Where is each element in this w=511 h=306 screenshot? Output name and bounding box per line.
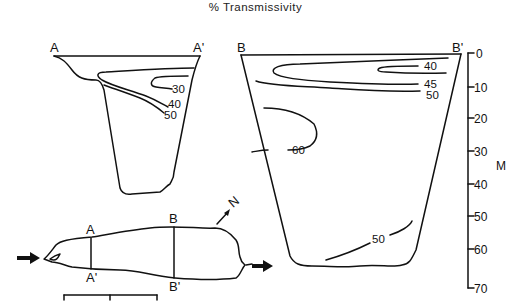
north-label: N bbox=[225, 193, 242, 211]
section-b-right-label: B' bbox=[452, 40, 463, 55]
map-a-prime-label: A' bbox=[86, 270, 97, 285]
depth-tick-label: 0 bbox=[476, 47, 483, 61]
lake-map bbox=[44, 227, 252, 280]
outflow-arrow-icon bbox=[252, 260, 273, 272]
contour-label: 50 bbox=[426, 89, 439, 101]
depth-tick-label: 60 bbox=[474, 243, 488, 257]
inflow-arrow-icon bbox=[17, 252, 40, 264]
depth-tick-label: 70 bbox=[474, 282, 488, 296]
depth-tick-label: 40 bbox=[474, 178, 488, 192]
section-a-profile bbox=[54, 56, 200, 194]
depth-unit-label: M bbox=[496, 159, 506, 173]
contour-label: 30 bbox=[172, 83, 185, 95]
map-a-label: A bbox=[86, 222, 95, 237]
contour-label: 40 bbox=[424, 60, 437, 72]
contour-label: 50 bbox=[164, 109, 177, 121]
depth-tick-label: 20 bbox=[474, 112, 488, 126]
section-a-right-label: A' bbox=[193, 40, 204, 55]
map-b-label: B bbox=[169, 211, 178, 226]
depth-tick-label: 30 bbox=[474, 145, 488, 159]
transmissivity-diagram: A A' 30 40 50 B B' 40 45 50 60 50 0 10 2… bbox=[0, 0, 511, 306]
depth-tick-label: 10 bbox=[474, 81, 488, 95]
section-a-left-label: A bbox=[50, 40, 59, 55]
contour-label: 60 bbox=[292, 144, 305, 156]
section-b-left-label: B bbox=[237, 40, 246, 55]
map-b-prime-label: B' bbox=[169, 279, 180, 294]
depth-tick-label: 50 bbox=[474, 210, 488, 224]
contour-label: 50 bbox=[372, 233, 385, 245]
scale-bar bbox=[64, 295, 157, 300]
